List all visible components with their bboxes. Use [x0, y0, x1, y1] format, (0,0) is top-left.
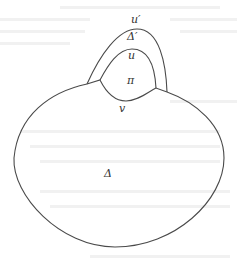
- label-delta-prime: Δ′: [126, 30, 138, 43]
- label-pi: π: [126, 74, 135, 87]
- label-delta: Δ: [103, 167, 112, 180]
- label-v: v: [119, 102, 126, 115]
- label-u: u: [128, 49, 135, 62]
- label-u-prime: u′: [131, 13, 141, 26]
- region-diagram: u′ Δ′ u π v Δ: [0, 0, 237, 259]
